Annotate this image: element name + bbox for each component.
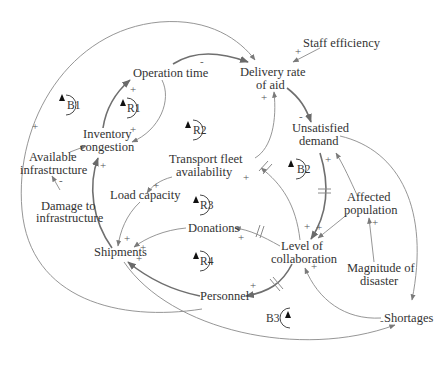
loop-r4: R4 xyxy=(193,251,214,271)
delay-mark xyxy=(270,279,280,291)
node-available-infrastructure: infrastructure xyxy=(20,163,88,177)
loop-b3: B3 xyxy=(266,308,291,328)
link-shipments-to-inventory xyxy=(93,158,112,248)
loop-direction-icon xyxy=(193,196,199,203)
svg-text:R3: R3 xyxy=(200,199,214,211)
svg-text:+: + xyxy=(32,120,38,132)
node-donations: Donations xyxy=(188,221,240,235)
loop-direction-icon xyxy=(285,311,291,318)
node-unsatisfied-demand: Unsatisfied xyxy=(292,121,350,135)
node-damage-to-infrastructure: infrastructure xyxy=(36,211,104,225)
loop-direction-icon xyxy=(185,121,191,128)
svg-text:+: + xyxy=(325,153,331,165)
svg-text:+: + xyxy=(295,45,301,57)
loop-r3: R3 xyxy=(193,195,214,215)
node-magnitude-of-disaster: Magnitude of xyxy=(347,261,416,275)
svg-text:+: + xyxy=(372,216,378,228)
svg-text:+: + xyxy=(311,260,317,272)
svg-text:+: + xyxy=(261,91,267,103)
svg-text:+: + xyxy=(136,252,142,264)
node-delivery-rate: of aid xyxy=(256,78,286,92)
svg-text:+: + xyxy=(130,83,136,95)
link-operation-time-to-delivery-rate xyxy=(173,54,248,64)
node-level-of-collaboration: collaboration xyxy=(271,252,338,266)
svg-text:+: + xyxy=(243,171,249,183)
svg-text:+: + xyxy=(100,159,106,171)
loop-direction-icon xyxy=(59,94,65,101)
svg-text:B3: B3 xyxy=(266,312,280,324)
svg-text:B2: B2 xyxy=(297,163,311,175)
link-collaboration-to-transport xyxy=(261,168,300,240)
svg-text:-: - xyxy=(59,174,63,186)
loop-r1: R1 xyxy=(120,98,141,118)
svg-text:+: + xyxy=(250,279,256,291)
node-inventory-congestion: Inventory xyxy=(83,127,132,141)
svg-text:+: + xyxy=(304,220,310,232)
node-unsatisfied-demand: demand xyxy=(299,134,339,148)
svg-text:R1: R1 xyxy=(127,102,141,114)
node-affected-population: Affected xyxy=(347,190,391,204)
node-delivery-rate: Delivery rate xyxy=(240,65,306,79)
svg-text:-: - xyxy=(380,314,384,326)
link-personnel-to-shipments xyxy=(128,262,200,296)
svg-text:-: - xyxy=(70,148,74,160)
svg-text:+: + xyxy=(130,123,136,135)
svg-text:-: - xyxy=(200,55,204,67)
node-load-capacity: Load capacity xyxy=(110,188,181,202)
svg-text:+: + xyxy=(153,179,159,191)
node-transport-fleet-availability: Transport fleet xyxy=(169,152,243,166)
loop-direction-icon xyxy=(120,99,126,106)
node-personnel: Personnel xyxy=(200,289,250,303)
node-affected-population: population xyxy=(344,203,398,217)
node-transport-fleet-availability: availability xyxy=(176,165,233,179)
svg-text:R2: R2 xyxy=(193,124,207,136)
node-operation-time: Operation time xyxy=(133,66,209,80)
svg-text:+: + xyxy=(316,221,322,233)
causal-loop-diagram: B1 R1 R2 B2 R3 R4 B3 xyxy=(0,0,442,369)
polarity-signs: - + + - + + + - - + + + + + + + + + + + … xyxy=(32,45,384,326)
loop-b2: B2 xyxy=(288,159,311,179)
node-inventory-congestion: congestion xyxy=(80,140,135,154)
svg-text:-: - xyxy=(299,110,303,122)
link-inventory-to-operation-time xyxy=(103,80,130,128)
svg-text:+: + xyxy=(124,232,130,244)
loop-b1: B1 xyxy=(59,94,81,115)
loop-direction-icon xyxy=(193,252,199,259)
node-level-of-collaboration: Level of xyxy=(281,239,324,253)
nodes: Operation time Delivery rate of aid Staf… xyxy=(20,36,433,325)
loop-direction-icon xyxy=(288,160,294,167)
svg-text:R4: R4 xyxy=(200,255,214,267)
node-magnitude-of-disaster: disaster xyxy=(360,274,399,288)
node-staff-efficiency: Staff efficiency xyxy=(303,36,381,50)
node-shortages: Shortages xyxy=(384,311,433,325)
loop-r2: R2 xyxy=(185,120,207,140)
svg-text:+: + xyxy=(238,231,244,243)
svg-text:B1: B1 xyxy=(67,99,81,111)
